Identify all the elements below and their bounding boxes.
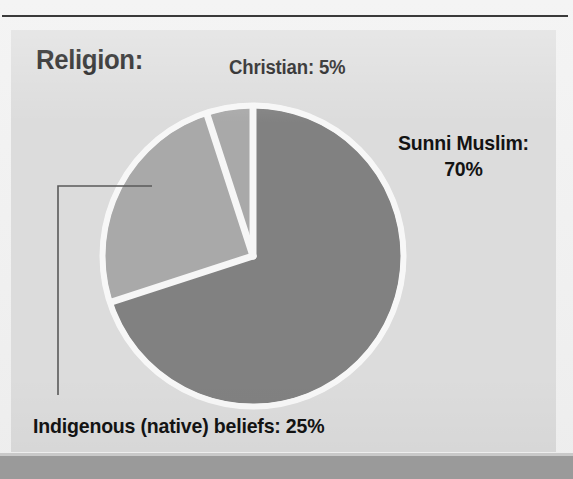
pie-chart-graphic	[11, 30, 556, 452]
pie-label-sunni-muslim-name: Sunni Muslim:	[398, 131, 529, 154]
top-horizontal-rule	[2, 15, 568, 17]
pie-label-indigenous-beliefs: Indigenous (native) beliefs: 25%	[33, 414, 324, 438]
page-root: Religion: Christian: 5% Sunni Muslim:70%…	[0, 0, 573, 479]
chart-title: Religion:	[36, 44, 143, 76]
footer-bar	[0, 456, 573, 479]
pie-chart-panel: Religion: Christian: 5% Sunni Muslim:70%…	[11, 30, 556, 452]
pie-label-christian: Christian: 5%	[229, 56, 345, 79]
pie-label-sunni-muslim-value: 70%	[444, 157, 483, 180]
pie-label-sunni-muslim: Sunni Muslim:70%	[389, 130, 538, 181]
